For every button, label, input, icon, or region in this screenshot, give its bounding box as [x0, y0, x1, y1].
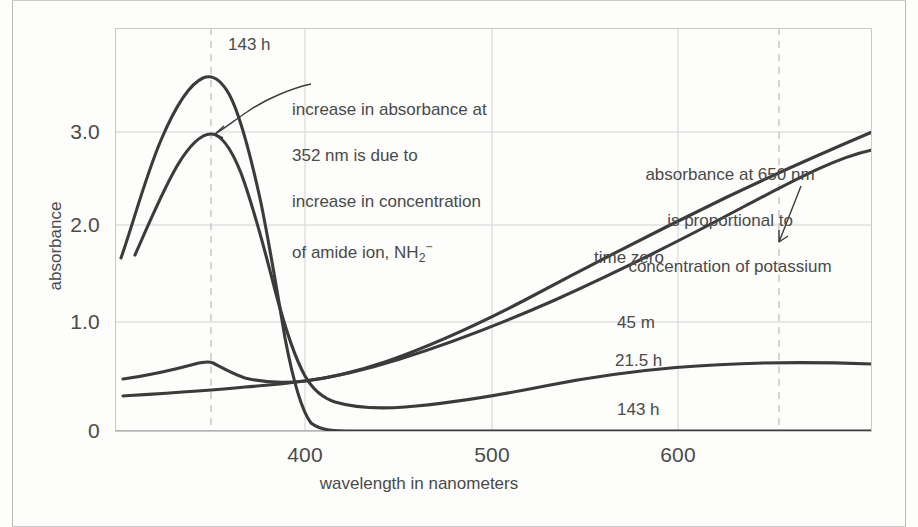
annotation-amide-line-4: of amide ion, NH2−	[292, 236, 487, 270]
peak-label-143h: 143 h	[228, 35, 271, 55]
curve-label-215h: 21.5 h	[615, 351, 662, 371]
curve-label-45m: 45 m	[617, 313, 655, 333]
annotation-potassium: absorbance at 650 nm is proportional to …	[600, 140, 860, 301]
page-rule-top	[12, 0, 906, 1]
annotation-amide-line-2: 352 nm is due to	[292, 144, 487, 167]
x-tick-400: 400	[265, 443, 345, 467]
curve-label-time-zero: time zero	[594, 248, 664, 268]
x-tick-500: 500	[452, 443, 532, 467]
annotation-amide-line-1: increase in absorbance at	[292, 98, 487, 121]
x-tick-600: 600	[638, 443, 718, 467]
annotation-potassium-line-2: is proportional to	[600, 209, 860, 232]
x-axis-label: wavelength in nanometers	[219, 474, 619, 494]
annotation-amide-ion: increase in absorbance at 352 nm is due …	[292, 75, 487, 293]
annotation-amide-line-4-text: of amide ion, NH	[292, 243, 419, 262]
page-rule-left	[12, 0, 13, 527]
y-tick-3: 3.0	[40, 120, 100, 144]
y-axis-label: absorbance	[46, 166, 66, 326]
annotation-potassium-line-1: absorbance at 650 nm	[600, 163, 860, 186]
amide-charge-minus: −	[425, 240, 432, 254]
annotation-amide-line-3: increase in concentration	[292, 190, 487, 213]
page-rule-right	[905, 0, 906, 527]
y-tick-0: 0	[40, 419, 100, 443]
curve-label-143h: 143 h	[617, 400, 660, 420]
figure-canvas: 3.0 2.0 1.0 0 400 500 600 absorbance wav…	[0, 0, 918, 527]
